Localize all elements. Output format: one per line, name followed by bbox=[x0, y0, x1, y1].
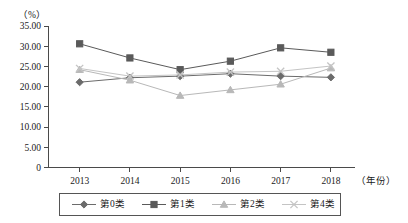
data-point bbox=[177, 73, 184, 80]
series-line bbox=[80, 68, 331, 95]
y-tick-label: 30.00 bbox=[20, 42, 42, 52]
square-marker-icon bbox=[278, 45, 284, 51]
x-tick-label: 2017 bbox=[271, 176, 290, 186]
data-point bbox=[76, 79, 83, 86]
y-tick-label: 25.00 bbox=[20, 62, 42, 72]
data-point bbox=[327, 74, 334, 81]
legend-label: 第4类 bbox=[310, 198, 335, 209]
x-tick-label: 2016 bbox=[221, 176, 240, 186]
diamond-marker-icon bbox=[76, 79, 83, 86]
legend-label: 第1类 bbox=[170, 198, 195, 209]
x-axis-unit-label: （年份） bbox=[356, 175, 396, 186]
series-0 bbox=[76, 70, 334, 86]
y-tick-label: 5.00 bbox=[24, 143, 41, 153]
chart-canvas: （%） 05.0010.0015.0020.0025.0030.0035.00 … bbox=[0, 0, 408, 223]
series-line bbox=[80, 44, 331, 70]
y-axis-unit-label: （%） bbox=[18, 9, 46, 20]
series-group bbox=[76, 41, 335, 99]
data-point bbox=[227, 58, 233, 64]
square-marker-icon bbox=[77, 41, 83, 47]
x-axis-ticks: 201320142015201620172018 bbox=[70, 168, 340, 187]
square-marker-icon bbox=[328, 49, 334, 55]
y-tick-label: 20.00 bbox=[20, 82, 42, 92]
line-chart: （%） 05.0010.0015.0020.0025.0030.0035.00 … bbox=[0, 0, 408, 223]
y-tick-label: 15.00 bbox=[20, 102, 42, 112]
diamond-marker-icon bbox=[327, 74, 334, 81]
y-tick-label: 35.00 bbox=[20, 21, 42, 31]
legend-label: 第0类 bbox=[100, 198, 125, 209]
y-axis-ticks: 05.0010.0015.0020.0025.0030.0035.00 bbox=[20, 21, 49, 173]
legend-marker-icon bbox=[151, 201, 157, 207]
legend-label: 第2类 bbox=[240, 198, 265, 209]
square-marker-icon bbox=[151, 201, 157, 207]
x-tick-label: 2018 bbox=[321, 176, 340, 186]
x-tick-label: 2015 bbox=[171, 176, 190, 186]
series-1 bbox=[77, 41, 334, 73]
diamond-marker-icon bbox=[177, 73, 184, 80]
square-marker-icon bbox=[127, 55, 133, 61]
data-point bbox=[127, 55, 133, 61]
x-tick-label: 2013 bbox=[70, 176, 89, 186]
y-tick-label: 0 bbox=[36, 163, 41, 173]
x-tick-label: 2014 bbox=[120, 176, 139, 186]
data-point bbox=[278, 45, 284, 51]
data-point bbox=[328, 49, 334, 55]
square-marker-icon bbox=[227, 58, 233, 64]
y-tick-label: 10.00 bbox=[20, 122, 42, 132]
data-point bbox=[77, 41, 83, 47]
